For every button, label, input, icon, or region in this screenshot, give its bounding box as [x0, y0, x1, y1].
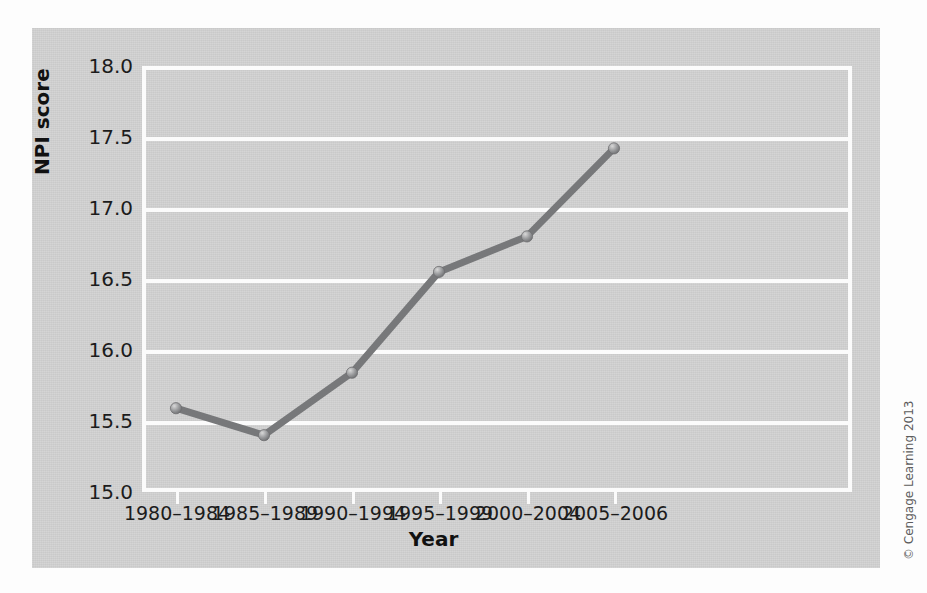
y-tick-16-5: 16.5 [88, 267, 133, 291]
data-point-2 [346, 367, 357, 378]
data-line [176, 148, 614, 435]
data-point-4 [521, 231, 532, 242]
y-tick-18-0: 18.0 [88, 54, 133, 78]
x-axis-title: Year [0, 527, 927, 551]
series-npi-score [142, 66, 852, 492]
y-axis-title: NPI score [30, 68, 54, 175]
data-point-1 [258, 430, 269, 441]
y-tick-17-5: 17.5 [88, 125, 133, 149]
y-tick-16-0: 16.0 [88, 338, 133, 362]
x-axis-title-text: Year [409, 527, 459, 551]
data-point-0 [170, 403, 181, 414]
figure: 18.0 17.5 17.0 16.5 16.0 15.5 15.0 NPI s… [0, 0, 927, 593]
data-point-3 [433, 266, 444, 277]
y-tick-15-0: 15.0 [88, 480, 133, 504]
y-axis-tick-labels: 18.0 17.5 17.0 16.5 16.0 15.5 15.0 [0, 66, 133, 492]
copyright-credit: © Cengage Learning 2013 [902, 401, 916, 560]
y-tick-17-0: 17.0 [88, 196, 133, 220]
plot-area [142, 66, 852, 492]
x-tick-label-5: 2005–2006 [562, 502, 668, 524]
data-point-5 [608, 143, 619, 154]
y-tick-15-5: 15.5 [88, 409, 133, 433]
